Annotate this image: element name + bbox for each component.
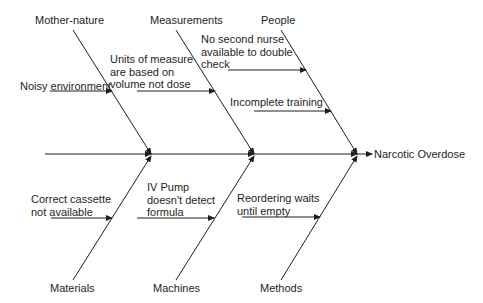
- category-machines: Machines: [153, 282, 200, 295]
- cause-units-of-measure: Units of measure are based on volume not…: [110, 53, 193, 91]
- cause-incomplete-training: Incomplete training: [230, 96, 323, 109]
- cause-iv-pump: IV Pump doesn't detect formula: [147, 181, 215, 219]
- category-materials: Materials: [50, 282, 95, 295]
- cause-noisy-environment: Noisy environment: [20, 80, 111, 93]
- cause-reordering: Reordering waits until empty: [237, 192, 320, 217]
- category-mother-nature: Mother-nature: [35, 14, 104, 27]
- bone-methods: [281, 156, 357, 280]
- fishbone-diagram: Mother-nature Measurements People Materi…: [0, 0, 483, 303]
- category-methods: Methods: [260, 282, 302, 295]
- cause-correct-cassette: Correct cassette not available: [31, 193, 111, 218]
- cause-no-second-nurse: No second nurse available to double chec…: [201, 33, 293, 71]
- category-measurements: Measurements: [150, 14, 223, 27]
- effect-label: Narcotic Overdose: [374, 148, 465, 161]
- category-people: People: [261, 14, 295, 27]
